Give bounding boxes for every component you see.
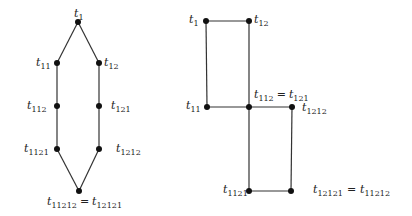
node-t11	[204, 104, 210, 110]
node-t12121	[288, 188, 294, 194]
label-t12121-eq-t11212: t12121=t11212	[313, 183, 390, 198]
node-t11	[54, 60, 60, 66]
edge	[57, 22, 78, 63]
label-t1212: t1212	[302, 101, 327, 116]
node-t1	[203, 18, 209, 24]
left-graph: t1 t11 t12 t112 t121 t1121 t1212 t11212=…	[24, 7, 141, 210]
label-t11: t11	[36, 56, 51, 71]
node-t1121	[54, 146, 60, 152]
label-t1121: t1121	[24, 142, 49, 157]
node-t121	[96, 103, 102, 109]
label-t1: t1	[74, 7, 84, 22]
diagram-canvas: t1 t11 t12 t112 t121 t1121 t1212 t11212=…	[0, 0, 412, 216]
node-t11212	[76, 188, 82, 194]
edge	[57, 149, 79, 191]
edge	[291, 107, 292, 191]
label-t112: t112	[27, 99, 47, 114]
label-t121: t121	[111, 99, 131, 114]
label-t1: t1	[189, 13, 199, 28]
right-graph: t1 t12 t11 t112=t121 t1212 t1121 t12121=…	[186, 13, 390, 198]
node-t12	[246, 18, 252, 24]
node-t1212	[289, 104, 295, 110]
label-t1212: t1212	[116, 142, 141, 157]
node-t112	[54, 103, 60, 109]
edge	[79, 149, 99, 191]
label-t1121: t1121	[223, 183, 248, 198]
edge	[206, 21, 207, 107]
node-t12	[96, 60, 102, 66]
label-t112-eq-t121: t112=t121	[254, 88, 309, 103]
edge	[78, 22, 99, 63]
label-t12: t12	[104, 56, 119, 71]
node-t1212	[96, 146, 102, 152]
node-t112	[246, 104, 252, 110]
label-t11: t11	[186, 99, 201, 114]
label-t11212-eq-t12121: t11212=t12121	[47, 195, 122, 210]
label-t12: t12	[254, 13, 269, 28]
